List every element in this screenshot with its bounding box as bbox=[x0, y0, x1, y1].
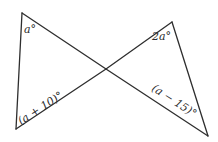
crossing-line-a-upper-segment bbox=[22, 13, 106, 69]
angle-label-bottom-left: (a + 10)° bbox=[16, 89, 66, 128]
angle-label-top-right: 2a° bbox=[151, 30, 171, 43]
crossing-line-a-lower-segment bbox=[106, 69, 208, 136]
vertical-angles-diagram: a° 2a° (a + 10)° (a − 15)° bbox=[0, 0, 218, 142]
angle-label-top-left: a° bbox=[24, 23, 36, 36]
left-triangle-left-side bbox=[16, 13, 22, 129]
